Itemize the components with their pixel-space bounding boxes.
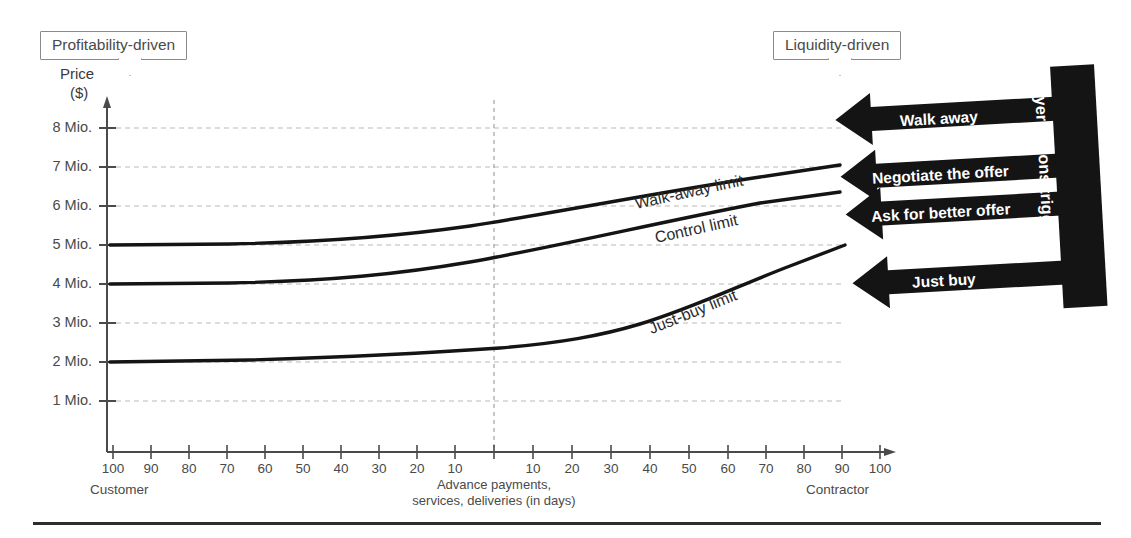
callout-liquidity-driven: Liquidity-driven [773, 31, 901, 76]
buyer-actions-band-rect [1050, 64, 1107, 308]
x-axis-label-contractor: Contractor [806, 482, 869, 497]
y-tick-label-5: 5 Mio. [24, 236, 92, 252]
x-tick-label-right-80: 80 [784, 461, 824, 476]
arrow-label-just-buy: Just buy [912, 270, 977, 292]
y-tick-label-3: 3 Mio. [24, 314, 92, 330]
y-axis-title-line1: Price [60, 65, 94, 82]
x-tick-label-right-100: 100 [860, 461, 900, 476]
callout-profitability-driven-label: Profitability-driven [40, 31, 187, 60]
x-tick-label-right-40: 40 [630, 461, 670, 476]
chart-canvas: Walk away Negotiate the offer Ask for be… [0, 0, 1131, 538]
x-tick-label-left-60: 60 [245, 461, 285, 476]
x-tick-label-right-90: 90 [822, 461, 862, 476]
callout-liquidity-driven-tail [828, 58, 852, 76]
y-tick-label-4: 4 Mio. [24, 275, 92, 291]
x-tick-label-right-50: 50 [669, 461, 709, 476]
callout-liquidity-driven-label: Liquidity-driven [773, 31, 901, 60]
y-tick-label-2: 2 Mio. [24, 353, 92, 369]
y-tick-label-1: 1 Mio. [24, 392, 92, 408]
y-tick-label-7: 7 Mio. [24, 158, 92, 174]
y-tick-label-8: 8 Mio. [24, 119, 92, 135]
x-axis-label-customer: Customer [90, 482, 149, 497]
x-tick-label-right-60: 60 [708, 461, 748, 476]
callout-profitability-driven-tail [118, 58, 142, 76]
x-tick-label-left-30: 30 [359, 461, 399, 476]
y-tick-label-6: 6 Mio. [24, 197, 92, 213]
footer-divider [33, 522, 1101, 525]
x-tick-label-right-30: 30 [591, 461, 631, 476]
x-axis-title-line1: Advance payments, [394, 477, 594, 493]
x-tick-label-left-50: 50 [283, 461, 323, 476]
x-tick-label-right-10: 10 [513, 461, 553, 476]
x-tick-label-left-80: 80 [169, 461, 209, 476]
y-axis-title-line2: ($) [70, 84, 88, 101]
x-tick-label-left-100: 100 [93, 461, 133, 476]
x-tick-label-left-20: 20 [397, 461, 437, 476]
x-tick-label-right-20: 20 [552, 461, 592, 476]
x-tick-label-left-90: 90 [131, 461, 171, 476]
x-axis-arrowhead [884, 448, 896, 456]
x-tick-label-left-10: 10 [435, 461, 475, 476]
y-axis-arrowhead [103, 96, 111, 108]
x-tick-label-left-70: 70 [207, 461, 247, 476]
x-tick-label-left-40: 40 [321, 461, 361, 476]
x-axis-title-line2: services, deliveries (in days) [394, 493, 594, 509]
x-tick-label-right-70: 70 [746, 461, 786, 476]
